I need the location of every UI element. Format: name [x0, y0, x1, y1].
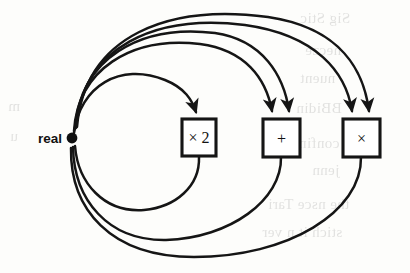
operator-box-times[interactable]: ×	[343, 119, 380, 157]
edge-times-to-real	[71, 148, 361, 257]
flow-diagram: × 2+× real	[0, 0, 410, 273]
operator-box-label-times: ×	[357, 130, 366, 147]
edge-real-to-plus-a	[74, 43, 272, 131]
source-node-group: real	[38, 131, 77, 146]
source-node-dot[interactable]	[67, 133, 78, 144]
edge-real-to-times-b	[77, 14, 369, 127]
edge-plus-to-real	[73, 147, 281, 240]
operator-box-label-times-two: × 2	[188, 129, 209, 146]
operator-box-group: × 2+×	[182, 119, 380, 157]
operator-box-times-two[interactable]: × 2	[182, 119, 216, 156]
operator-box-plus[interactable]: +	[263, 119, 300, 157]
source-node-label: real	[38, 131, 62, 146]
forward-edge-group	[74, 14, 369, 133]
edge-real-to-times-two	[74, 74, 196, 133]
edge-times-two-to-real	[75, 146, 199, 210]
operator-box-label-plus: +	[277, 130, 286, 147]
figure-canvas: Sig SticneczenuentBBidinconfin erejennth…	[0, 0, 410, 273]
return-edge-group	[71, 146, 361, 257]
